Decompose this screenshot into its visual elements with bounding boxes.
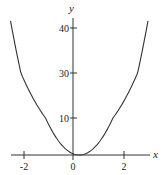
y-axis-label: y — [68, 2, 74, 14]
parabola-curve — [11, 21, 149, 155]
x-tick-label-neg2: -2 — [20, 161, 28, 172]
y-tick-label-40: 40 — [59, 23, 69, 34]
y-tick-label-10: 10 — [59, 113, 69, 124]
y-tick-label-30: 30 — [59, 68, 69, 79]
x-tick-label-2: 2 — [122, 161, 127, 172]
x-tick-label-0: 0 — [71, 161, 76, 172]
parabola-chart: -2 0 2 40 30 10 x y — [0, 0, 166, 175]
x-axis-label: x — [152, 148, 158, 160]
